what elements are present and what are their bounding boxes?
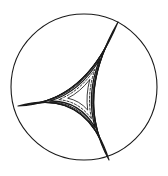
figure-container — [0, 0, 168, 176]
hyperbolic-triangles-figure — [0, 0, 168, 176]
figure-background — [0, 0, 168, 176]
